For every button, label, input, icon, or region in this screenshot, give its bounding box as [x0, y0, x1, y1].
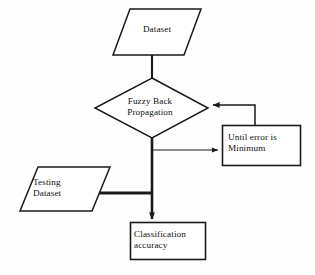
node-classification-accuracy[interactable]	[131, 223, 206, 260]
flowchart-canvas: Dataset Fuzzy Back Propagation Until err…	[0, 0, 315, 275]
node-testing-dataset[interactable]	[20, 167, 110, 211]
node-until-error-minimum[interactable]	[223, 126, 301, 166]
node-dataset[interactable]	[113, 9, 201, 55]
flowchart-svg	[0, 0, 315, 275]
edge-until-to-fuzzy-feedback	[213, 105, 255, 125]
node-fuzzy-back-propagation[interactable]	[95, 78, 208, 138]
